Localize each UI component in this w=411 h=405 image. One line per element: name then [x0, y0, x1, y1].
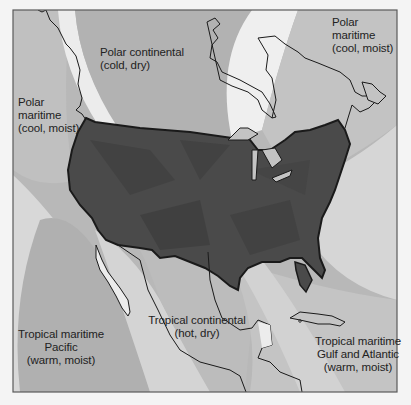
label-line: Pacific [18, 341, 104, 354]
label-tropical-maritime-gulf: Tropical maritime Gulf and Atlantic (war… [313, 335, 403, 374]
label-line: maritime [18, 109, 79, 122]
label-line: Polar [332, 16, 393, 29]
label-line: Polar continental [100, 46, 184, 59]
label-polar-continental: Polar continental (cold, dry) [100, 46, 184, 72]
label-line: Gulf and Atlantic [313, 348, 403, 361]
label-line: (cold, dry) [100, 59, 184, 72]
label-line: Tropical maritime [18, 328, 104, 341]
label-polar-maritime-atlantic: Polar maritime (cool, moist) [332, 16, 393, 55]
label-line: (hot, dry) [142, 327, 252, 340]
label-line: (cool, moist) [332, 42, 393, 55]
label-polar-maritime-pacific: Polar maritime (cool, moist) [18, 96, 79, 135]
label-line: Tropical maritime [313, 335, 403, 348]
label-line: maritime [332, 29, 393, 42]
label-line: Polar [18, 96, 79, 109]
label-tropical-maritime-pacific: Tropical maritime Pacific (warm, moist) [18, 328, 104, 367]
label-line: (warm, moist) [18, 354, 104, 367]
label-line: (warm, moist) [313, 361, 403, 374]
label-tropical-continental: Tropical continental (hot, dry) [142, 314, 252, 340]
label-line: Tropical continental [142, 314, 252, 327]
label-line: (cool, moist) [18, 122, 79, 135]
